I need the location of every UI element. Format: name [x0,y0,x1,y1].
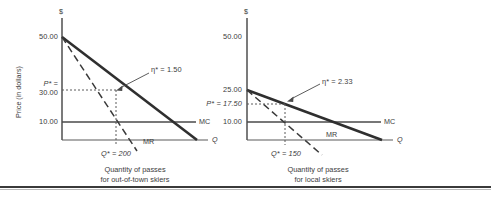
bottom-divider-shadow [0,189,491,190]
y-axis-currency-symbol-right: $ [244,8,248,16]
quantity-label-left: Q* = 200 [80,150,152,158]
y-tick-label-10: 10.00 [24,118,58,126]
x-axis-label-left: Q [212,136,218,144]
mr-curve-label-right: MR [326,131,337,139]
elasticity-annotation-right: η* = 2.33 [322,78,353,86]
x-axis-label-right: Q [397,136,403,144]
chart-caption-left: Quantity of passes for out-of-town skier… [55,165,215,184]
caption-line-1-right: Quantity of passes [238,165,398,175]
quantity-label-right: Q* = 150 [250,150,322,158]
price-discrimination-figure: $ Price (in dollars) 50.00 10.00 P* = 30… [0,0,491,201]
price-label-line2-left: 30.00 [20,89,58,97]
y-tick-label-50-right: 50.00 [206,33,242,41]
chart-caption-right: Quantity of passes for local skiers [238,165,398,184]
y-tick-label-25-right: 25.00 [206,86,242,94]
y-tick-label-50: 50.00 [24,33,58,41]
mc-curve-label-right: MC [384,118,395,126]
chart-panel-local: $ 50.00 25.00 10.00 P* = 17.50 η* = 2.33… [228,0,473,183]
caption-line-2-right: for local skiers [238,175,398,185]
bottom-divider-rule [0,186,491,188]
y-tick-label-10-right: 10.00 [206,118,242,126]
y-axis-currency-symbol-left: $ [59,8,63,16]
mr-curve-label-left: MR [143,138,154,146]
caption-line-1-left: Quantity of passes [55,165,215,175]
caption-line-2-left: for out-of-town skiers [55,175,215,185]
price-label-right: P* = 17.50 [192,100,242,108]
elasticity-annotation-left: η* = 1.50 [151,66,182,74]
